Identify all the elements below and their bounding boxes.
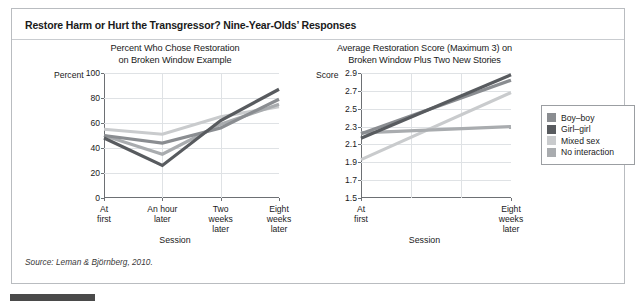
legend-item-label: Girl–girl xyxy=(561,124,591,134)
legend-item[interactable]: No interaction xyxy=(547,147,628,157)
legend-item[interactable]: Girl–girl xyxy=(547,124,628,134)
chart-left-x-tick-label: An hourlater xyxy=(147,204,177,224)
chart-left-x-tick-label: Twoweekslater xyxy=(208,204,232,234)
chart-right-y-tick-label: 1.5 xyxy=(345,193,357,203)
chart-left-title: Percent Who Chose Restoration on Broken … xyxy=(30,43,320,66)
legend-item-label: No interaction xyxy=(561,147,614,157)
chart-right-y-axis-label: Score xyxy=(316,70,338,80)
legend: Boy–boyGirl–girlMixed sexNo interaction xyxy=(541,105,635,165)
chart-right-x-axis-title: Session xyxy=(312,235,537,245)
chart-right-y-tick-label: 1.9 xyxy=(345,157,357,167)
chart-left-series-layer xyxy=(104,73,279,198)
page-bottom-marker xyxy=(10,294,95,301)
legend-item[interactable]: Boy–boy xyxy=(547,113,628,123)
chart-right-x-tick-label: Atfirst xyxy=(354,204,368,224)
chart-left-x-tick-mark xyxy=(221,198,222,201)
legend-swatch-icon xyxy=(547,125,556,134)
figure-container: Restore Harm or Hurt the Transgressor? N… xyxy=(11,8,625,284)
chart-right-y-tick-label: 2.3 xyxy=(345,122,357,132)
legend-swatch-icon xyxy=(547,136,556,145)
legend-item-label: Boy–boy xyxy=(561,113,594,123)
source-note: Source: Leman & Björnberg, 2010. xyxy=(25,257,153,267)
title-divider xyxy=(12,39,624,40)
chart-right-x-tick-label: Eightweekslater xyxy=(499,204,523,234)
chart-left-x-tick-mark xyxy=(104,198,105,201)
legend-item-label: Mixed sex xyxy=(561,136,600,146)
chart-panel-right: Average Restoration Score (Maximum 3) on… xyxy=(312,43,537,248)
chart-left-x-tick-mark xyxy=(279,198,280,201)
chart-left-y-tick-label: 60 xyxy=(90,118,100,128)
chart-left-title-line1: Percent Who Chose Restoration xyxy=(30,43,320,55)
chart-left-plot-area: 020406080100AtfirstAn hourlaterTwoweeksl… xyxy=(104,73,279,198)
chart-right-y-tick-label: 2.5 xyxy=(345,104,357,114)
chart-left-x-tick-label: Eightweekslater xyxy=(267,204,291,234)
chart-right-title-line1: Average Restoration Score (Maximum 3) on xyxy=(312,43,537,55)
chart-left-series-line xyxy=(104,89,279,165)
chart-right-plot-area: 1.51.71.92.12.32.52.72.9AtfirstEightweek… xyxy=(361,73,511,198)
chart-right-series-layer xyxy=(361,73,511,198)
chart-right-y-tick-label: 1.7 xyxy=(345,175,357,185)
chart-right-x-tick-mark xyxy=(361,198,362,201)
chart-left-y-tick-label: 100 xyxy=(86,68,100,78)
chart-left-x-tick-label: Atfirst xyxy=(97,204,111,224)
chart-right-title: Average Restoration Score (Maximum 3) on… xyxy=(312,43,537,66)
chart-right-x-tick-mark xyxy=(511,198,512,201)
chart-left-series-line xyxy=(104,99,279,143)
chart-right-y-tick-label: 2.1 xyxy=(345,139,357,149)
chart-left-y-tick-label: 80 xyxy=(90,93,100,103)
legend-swatch-icon xyxy=(547,113,556,122)
chart-right-title-line2: Broken Window Plus Two New Stories xyxy=(312,55,537,67)
chart-left-x-tick-mark xyxy=(162,198,163,201)
figure-title: Restore Harm or Hurt the Transgressor? N… xyxy=(25,19,356,31)
legend-swatch-icon xyxy=(547,148,556,157)
chart-left-y-tick-label: 0 xyxy=(95,193,100,203)
chart-left-y-axis-label: Percent xyxy=(54,70,84,80)
legend-item[interactable]: Mixed sex xyxy=(547,136,628,146)
chart-left-x-axis-title: Session xyxy=(30,235,320,245)
chart-right-y-tick-label: 2.7 xyxy=(345,86,357,96)
chart-left-title-line2: on Broken Window Example xyxy=(30,55,320,67)
chart-left-y-tick-label: 40 xyxy=(90,143,100,153)
chart-panel-left: Percent Who Chose Restoration on Broken … xyxy=(30,43,320,248)
chart-left-y-tick-label: 20 xyxy=(90,168,100,178)
chart-right-y-tick-label: 2.9 xyxy=(345,68,357,78)
